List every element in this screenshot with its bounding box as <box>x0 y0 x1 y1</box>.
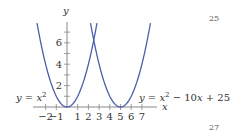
x-tick-label: 4 <box>107 111 113 122</box>
right-equation-label: y = x2 − 10x + 25 <box>138 91 230 103</box>
curves <box>37 23 150 107</box>
parabolas-chart: −2−11234567 246 y x y = x2 y = x2 − 10x … <box>0 0 233 134</box>
y-ticks: 246 <box>56 32 70 96</box>
y-tick-label: 4 <box>56 59 62 70</box>
y-axis-label: y <box>62 5 69 16</box>
x-tick-label: 5 <box>117 111 123 122</box>
y-tick-label: 2 <box>56 80 62 91</box>
x-tick-label: 6 <box>128 111 134 122</box>
left-equation-label: y = x2 <box>15 91 47 103</box>
y-tick-label: 6 <box>56 37 62 48</box>
x-tick-label: −1 <box>49 111 64 122</box>
x-tick-label: 3 <box>96 111 102 122</box>
x-tick-label: 1 <box>75 111 81 122</box>
page-number-bottom: 27 <box>209 123 219 132</box>
x-tick-label: 7 <box>139 111 145 122</box>
x-tick-label: 2 <box>85 111 91 122</box>
page-number-top: 25 <box>209 14 219 23</box>
